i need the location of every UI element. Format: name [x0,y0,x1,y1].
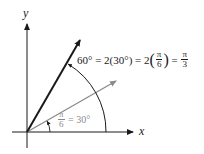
arc-30 [47,121,50,132]
x-axis-label: x [139,124,144,139]
fraction-pi-over-6: π 6 [58,110,65,129]
label-60-lhs: 60° = 2(30°) = 2 [77,54,150,66]
label-60-mid: = [169,54,181,66]
fraction-pi-over-3: π 3 [181,50,188,69]
angle-diagram: y x 60° = 2(30°) = 2 ( π 6 ) = π 3 π 6 =… [0,0,204,154]
fraction-pi-over-6: π 6 [156,50,163,69]
frac-denominator: 3 [182,60,187,69]
frac-denominator: 6 [157,60,162,69]
paren-open: ( [150,52,155,68]
frac-denominator: 6 [59,120,64,129]
label-30-degrees: π 6 = 30° [57,110,90,129]
y-axis-label: y [23,6,28,21]
label-60-degrees: 60° = 2(30°) = 2 ( π 6 ) = π 3 [77,50,189,69]
diagram-graphic [0,0,204,154]
label-30-rhs: = 30° [66,114,91,125]
